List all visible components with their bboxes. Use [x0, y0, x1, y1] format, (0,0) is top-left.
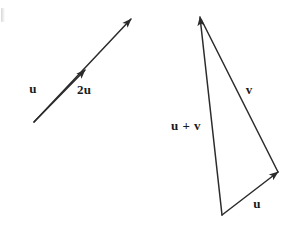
vector-diagram-figure: u 2u u + v v u — [0, 0, 296, 229]
left-panel-scalar-multiplication — [34, 19, 131, 122]
vector-u-plus-v — [200, 17, 222, 215]
label-u-plus-v-right-panel: u + v — [171, 119, 201, 132]
label-2u-left-panel: 2u — [77, 83, 91, 96]
right-panel-vector-addition — [200, 17, 278, 215]
vector-v-right — [201, 19, 278, 172]
label-u-left-panel: u — [29, 82, 36, 95]
vector-u-right — [222, 172, 278, 215]
vector-diagram-canvas — [0, 0, 296, 229]
label-v-right-panel: v — [246, 83, 253, 96]
label-u-right-panel: u — [253, 197, 260, 210]
